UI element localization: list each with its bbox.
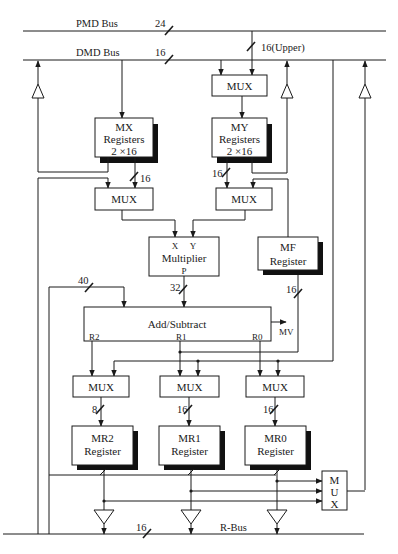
svg-text:R0: R0 bbox=[252, 332, 263, 342]
mac-block-diagram: PMD Bus 24 DMD Bus 16 R-Bus 16 16(Upper)… bbox=[0, 0, 398, 554]
r-bus-width: 16 bbox=[136, 522, 147, 533]
my-mux: MUX bbox=[216, 188, 272, 210]
mv-flag: MV bbox=[279, 327, 294, 337]
pmd-upper-width: 16(Upper) bbox=[261, 42, 305, 54]
svg-text:2 ×16: 2 ×16 bbox=[111, 145, 137, 157]
mr2-mux: MUX bbox=[73, 376, 129, 397]
svg-text:MR0: MR0 bbox=[264, 432, 287, 444]
dmd-bus-label: DMD Bus bbox=[76, 47, 119, 58]
svg-text:X: X bbox=[331, 498, 339, 510]
mr1-register: MR1 Register bbox=[159, 426, 225, 470]
pmd-bus-width: 24 bbox=[155, 18, 166, 29]
r-bus-label: R-Bus bbox=[220, 522, 247, 533]
dmd-bus-width: 16 bbox=[155, 47, 166, 58]
mr0-width: 16 bbox=[263, 404, 274, 415]
svg-text:MX: MX bbox=[115, 121, 133, 133]
svg-text:MR2: MR2 bbox=[91, 432, 114, 444]
svg-text:U: U bbox=[331, 486, 339, 498]
svg-text:MUX: MUX bbox=[88, 381, 114, 393]
svg-text:Registers: Registers bbox=[219, 133, 260, 145]
mr1-width: 16 bbox=[177, 404, 188, 415]
svg-text:Register: Register bbox=[171, 445, 208, 457]
svg-text:Y: Y bbox=[190, 241, 197, 251]
svg-text:MR1: MR1 bbox=[178, 432, 201, 444]
svg-text:Register: Register bbox=[270, 255, 307, 267]
svg-text:P: P bbox=[181, 266, 186, 276]
svg-text:MUX: MUX bbox=[111, 193, 137, 205]
out-mux: M U X bbox=[322, 471, 347, 510]
my-registers: MY Registers 2 ×16 bbox=[212, 118, 272, 163]
svg-text:MUX: MUX bbox=[177, 381, 203, 393]
r-bus: R-Bus 16 bbox=[3, 522, 364, 538]
svg-text:Add/Subtract: Add/Subtract bbox=[148, 318, 207, 330]
svg-text:M: M bbox=[330, 474, 340, 486]
svg-text:R1: R1 bbox=[176, 332, 187, 342]
multiplier: X Y Multiplier P bbox=[149, 237, 219, 276]
mr2-width: 8 bbox=[92, 404, 97, 415]
svg-text:MY: MY bbox=[231, 121, 249, 133]
buffer-mid-icon bbox=[281, 61, 293, 173]
mr1-mux: MUX bbox=[160, 376, 219, 397]
dmd-bus: DMD Bus 16 bbox=[23, 47, 386, 64]
buffer-right-icon bbox=[359, 61, 371, 490]
mr1-rbus-buffer-icon bbox=[181, 510, 201, 534]
svg-text:R2: R2 bbox=[89, 332, 100, 342]
svg-text:2 ×16: 2 ×16 bbox=[227, 145, 253, 157]
mx-width: 16 bbox=[140, 173, 151, 184]
svg-text:MUX: MUX bbox=[227, 80, 253, 92]
svg-text:Registers: Registers bbox=[104, 133, 145, 145]
svg-text:X: X bbox=[172, 241, 179, 251]
svg-text:MF: MF bbox=[280, 241, 296, 253]
svg-text:Register: Register bbox=[84, 445, 121, 457]
mx-registers: MX Registers 2 ×16 bbox=[95, 118, 158, 163]
mx-mux: MUX bbox=[95, 188, 153, 210]
mr0-rbus-buffer-icon bbox=[267, 510, 287, 534]
my-width: 16 bbox=[212, 168, 223, 179]
mr0-mux: MUX bbox=[246, 376, 304, 397]
mult-width: 32 bbox=[170, 282, 181, 293]
buffer-left-icon bbox=[32, 61, 44, 172]
mf-register: MF Register bbox=[258, 237, 323, 275]
pmd-bus-label: PMD Bus bbox=[76, 18, 118, 29]
feedback-width: 40 bbox=[78, 275, 89, 286]
svg-text:MUX: MUX bbox=[262, 381, 288, 393]
pmd-bus: PMD Bus 24 bbox=[23, 18, 386, 35]
svg-text:Multiplier: Multiplier bbox=[162, 252, 207, 264]
top-mux: MUX bbox=[212, 75, 267, 96]
svg-text:MUX: MUX bbox=[231, 193, 257, 205]
mr0-register: MR0 Register bbox=[245, 426, 311, 470]
mr2-register: MR2 Register bbox=[72, 426, 138, 470]
mf-width: 16 bbox=[286, 284, 297, 295]
mr2-rbus-buffer-icon bbox=[94, 510, 114, 534]
add-subtract: Add/Subtract R2 R1 R0 bbox=[84, 307, 271, 342]
svg-text:Register: Register bbox=[257, 445, 294, 457]
